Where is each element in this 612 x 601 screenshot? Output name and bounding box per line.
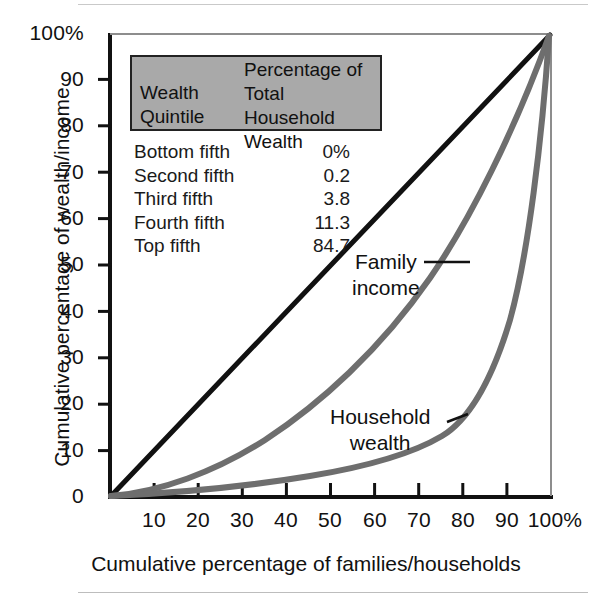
lorenz-curve-figure: 100% 90 80 70 60 50 40 30 20 10 0 10 20 … (0, 0, 612, 601)
table-cell-value: 0% (280, 140, 382, 164)
table-cell-value: 0.2 (280, 164, 382, 188)
table-cell-label: Second fifth (134, 164, 234, 188)
table-cell-value: 3.8 (280, 187, 382, 211)
table-cell-label: Fourth fifth (134, 211, 225, 235)
household-wealth-callout: Household wealth (330, 404, 430, 456)
table-header-col1: Wealth Quintile (140, 81, 204, 129)
table-cell-label: Third fifth (134, 187, 213, 211)
table-header: Wealth Quintile Percentage of Total Hous… (130, 55, 382, 131)
x-tick-label-100: 100% (519, 508, 591, 532)
family-income-callout-line2: income (352, 275, 420, 301)
table-header-col1-line1: Wealth (140, 81, 204, 105)
table-cell-label: Top fifth (134, 234, 201, 258)
table-row: Bottom fifth 0% (130, 140, 382, 164)
y-tick-label-100: 100% (0, 21, 84, 45)
table-cell-label: Bottom fifth (134, 140, 230, 164)
household-wealth-callout-line2: wealth (330, 430, 430, 456)
household-wealth-callout-line1: Household (330, 404, 430, 430)
table-header-col2-line1: Percentage of (244, 58, 380, 82)
table-body: Bottom fifth 0% Second fifth 0.2 Third f… (130, 140, 382, 258)
table-row: Third fifth 3.8 (130, 187, 382, 211)
y-axis-title: Cumulative percentage of wealth/income (50, 47, 74, 507)
family-income-callout: Family income (352, 249, 420, 301)
table-row: Second fifth 0.2 (130, 164, 382, 188)
x-axis-title: Cumulative percentage of families/househ… (0, 552, 612, 576)
table-row: Fourth fifth 11.3 (130, 211, 382, 235)
wealth-quintile-table: Wealth Quintile Percentage of Total Hous… (130, 55, 382, 258)
table-cell-value: 11.3 (280, 211, 382, 235)
family-income-callout-line1: Family (352, 249, 420, 275)
table-header-col1-line2: Quintile (140, 105, 204, 129)
table-header-col2-line2: Total Household (244, 82, 380, 130)
table-row: Top fifth 84.7 (130, 234, 382, 258)
